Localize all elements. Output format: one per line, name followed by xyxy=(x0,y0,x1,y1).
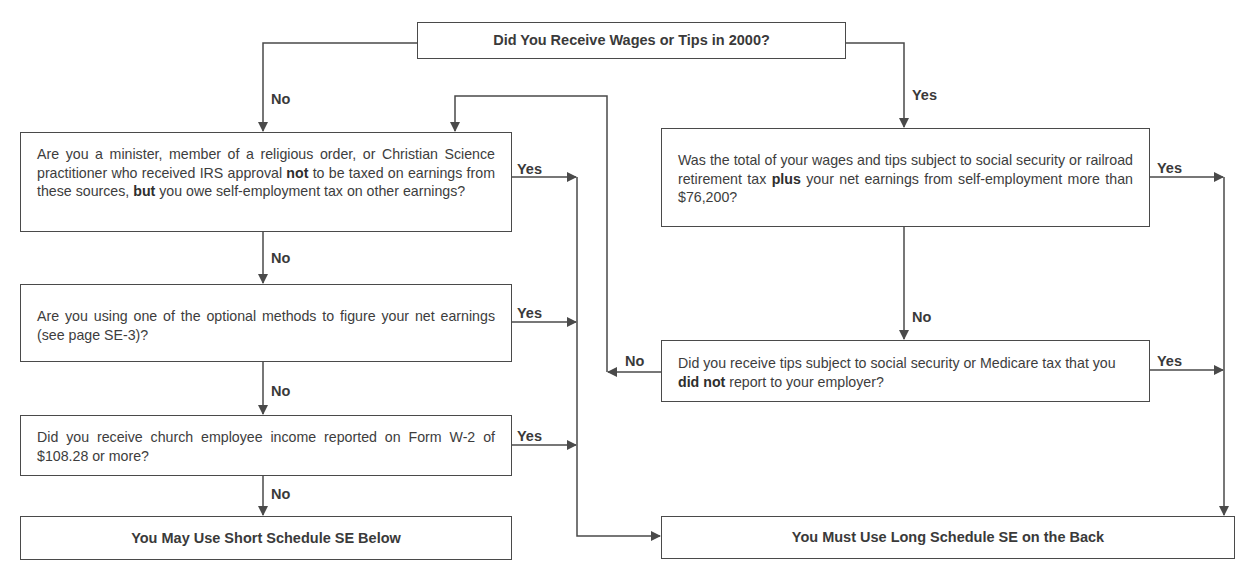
label-q1-no: No xyxy=(271,250,290,266)
arrow-start-no xyxy=(263,43,417,131)
label-r2-yes: Yes xyxy=(1157,353,1182,369)
label-r1-no: No xyxy=(912,309,931,325)
schedule-se-flowchart: Did You Receive Wages or Tips in 2000? A… xyxy=(0,0,1255,581)
label-q2-yes: Yes xyxy=(517,305,542,321)
label-q3-no: No xyxy=(271,486,290,502)
question-wage-limit-text: Was the total of your wages and tips sub… xyxy=(678,151,1133,207)
label-q1-yes: Yes xyxy=(517,161,542,177)
start-question-box: Did You Receive Wages or Tips in 2000? xyxy=(417,22,846,59)
question-church-income-box: Did you receive church employee income r… xyxy=(20,415,512,476)
label-q3-yes: Yes xyxy=(517,428,542,444)
question-church-income-text: Did you receive church employee income r… xyxy=(37,428,495,465)
question-minister-text: Are you a minister, member of a religiou… xyxy=(37,145,495,201)
outcome-long-schedule-box: You Must Use Long Schedule SE on the Bac… xyxy=(661,516,1235,559)
outcome-long-schedule-text: You Must Use Long Schedule SE on the Bac… xyxy=(792,528,1104,547)
question-optional-methods-box: Are you using one of the optional method… xyxy=(20,284,512,362)
question-unreported-tips-text: Did you receive tips subject to social s… xyxy=(678,354,1133,391)
question-unreported-tips-box: Did you receive tips subject to social s… xyxy=(661,340,1150,402)
start-question-text: Did You Receive Wages or Tips in 2000? xyxy=(493,31,770,50)
outcome-short-schedule-text: You May Use Short Schedule SE Below xyxy=(131,529,401,548)
label-r1-yes: Yes xyxy=(1157,160,1182,176)
question-optional-methods-text: Are you using one of the optional method… xyxy=(37,307,495,344)
collector-to-long xyxy=(577,177,660,536)
label-q2-no: No xyxy=(271,383,290,399)
outcome-short-schedule-box: You May Use Short Schedule SE Below xyxy=(20,516,512,560)
question-wage-limit-box: Was the total of your wages and tips sub… xyxy=(661,128,1150,227)
label-start-no: No xyxy=(271,91,290,107)
question-minister-box: Are you a minister, member of a religiou… xyxy=(20,132,512,232)
label-start-yes: Yes xyxy=(912,87,937,103)
label-r2-no: No xyxy=(625,353,644,369)
arrow-start-yes xyxy=(845,43,904,127)
